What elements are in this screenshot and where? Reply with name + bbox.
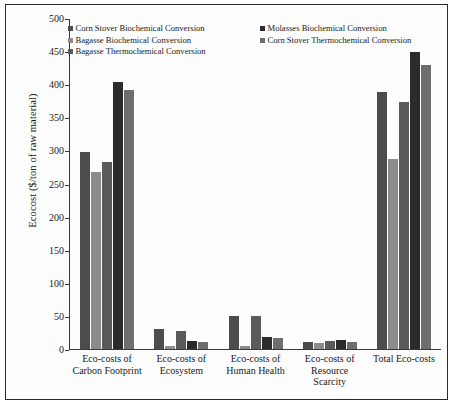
- legend-item[interactable]: Corn Stover Thermochemical Conversion: [260, 35, 440, 47]
- plot-area: 050100150200250300350400450500: [69, 19, 441, 350]
- y-axis-tick-label: 50: [54, 312, 64, 322]
- y-axis-tick-label: 500: [49, 14, 64, 24]
- legend-item[interactable]: Molasses Biochemical Conversion: [260, 23, 440, 35]
- x-axis-labels: Eco-costs ofCarbon FootprintEco-costs of…: [70, 353, 441, 388]
- bar[interactable]: [113, 82, 123, 349]
- legend-item-label: Bagasse Thermochemical Conversion: [76, 46, 206, 58]
- y-axis-tick-label: 0: [59, 345, 64, 355]
- bar[interactable]: [273, 338, 283, 349]
- y-axis-tick-mark: [65, 251, 69, 252]
- legend-item[interactable]: Corn Stover Biochemical Conversion: [68, 23, 253, 35]
- y-axis-tick-mark: [65, 85, 69, 86]
- bar[interactable]: [325, 341, 335, 349]
- y-axis-tick-label: 300: [49, 146, 64, 156]
- bar-group: [293, 19, 367, 349]
- y-axis-tick-mark: [65, 284, 69, 285]
- legend-item-label: Corn Stover Thermochemical Conversion: [268, 35, 412, 47]
- y-axis-tick-mark: [65, 218, 69, 219]
- y-axis-tick-mark: [65, 350, 69, 351]
- bar[interactable]: [377, 92, 387, 349]
- y-axis-tick-label: 250: [49, 180, 64, 190]
- y-axis-tick-mark: [65, 118, 69, 119]
- bar[interactable]: [124, 90, 134, 349]
- bar[interactable]: [165, 346, 175, 349]
- bar[interactable]: [229, 316, 239, 349]
- legend-item[interactable]: Bagasse Thermochemical Conversion: [68, 46, 253, 58]
- y-axis-tick-label: 100: [49, 279, 64, 289]
- bar-group: [70, 19, 144, 349]
- bar[interactable]: [336, 340, 346, 349]
- bar[interactable]: [388, 159, 398, 349]
- legend-swatch-icon: [260, 26, 265, 31]
- bar[interactable]: [102, 162, 112, 349]
- y-axis-tick-mark: [65, 317, 69, 318]
- bar[interactable]: [251, 316, 261, 349]
- bar[interactable]: [198, 342, 208, 349]
- bar-group: [218, 19, 292, 349]
- legend-swatch-icon: [68, 26, 73, 31]
- y-axis-tick-label: 450: [49, 47, 64, 57]
- legend-swatch-icon: [68, 49, 73, 54]
- y-axis-title: Ecocost ($/ton of raw material): [27, 61, 38, 261]
- bar[interactable]: [187, 341, 197, 349]
- x-axis-category-label: Eco-costs ofHuman Health: [218, 353, 292, 388]
- legend-column-right: Molasses Biochemical ConversionCorn Stov…: [260, 23, 440, 46]
- bar[interactable]: [91, 172, 101, 349]
- bar[interactable]: [80, 152, 90, 349]
- bar[interactable]: [240, 346, 250, 349]
- x-axis-category-label: Eco-costs ofEcosystem: [144, 353, 218, 388]
- y-axis-tick-label: 350: [49, 113, 64, 123]
- y-axis-tick-label: 150: [49, 246, 64, 256]
- x-axis-category-label: Eco-costs ofCarbon Footprint: [70, 353, 144, 388]
- legend-swatch-icon: [68, 38, 73, 43]
- bar-group: [144, 19, 218, 349]
- bar-groups: [70, 19, 441, 349]
- legend-item-label: Molasses Biochemical Conversion: [268, 23, 387, 35]
- y-axis-tick-label: 400: [49, 80, 64, 90]
- bar-group: [367, 19, 441, 349]
- y-axis-tick-mark: [65, 19, 69, 20]
- bar[interactable]: [154, 329, 164, 349]
- bar[interactable]: [314, 343, 324, 349]
- bar[interactable]: [347, 342, 357, 349]
- bar[interactable]: [262, 337, 272, 349]
- legend-swatch-icon: [260, 38, 265, 43]
- bar[interactable]: [421, 65, 431, 349]
- x-axis-category-label: Total Eco-costs: [367, 353, 441, 388]
- bar[interactable]: [410, 52, 420, 349]
- bar[interactable]: [176, 331, 186, 349]
- legend-column-left: Corn Stover Biochemical ConversionBagass…: [68, 23, 253, 58]
- legend-item-label: Bagasse Biochemical Conversion: [76, 35, 192, 47]
- y-axis-tick-label: 200: [49, 213, 64, 223]
- x-axis-line: [69, 349, 441, 350]
- x-axis-category-label: Eco-costs ofResourceScarcity: [293, 353, 367, 388]
- chart-frame: Ecocost ($/ton of raw material) 05010015…: [5, 4, 448, 400]
- bar[interactable]: [399, 102, 409, 350]
- y-axis-tick-mark: [65, 185, 69, 186]
- y-axis-tick-mark: [65, 151, 69, 152]
- legend-item[interactable]: Bagasse Biochemical Conversion: [68, 35, 253, 47]
- bar[interactable]: [303, 342, 313, 349]
- legend-item-label: Corn Stover Biochemical Conversion: [76, 23, 205, 35]
